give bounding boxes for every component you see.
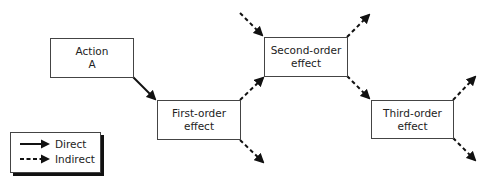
indirect-arrow-first-to-second [240, 78, 263, 100]
direct-arrow-action-to-first [133, 77, 155, 99]
indirect-arrow-second-to-third [347, 76, 369, 98]
node-label-line1: Third-order [383, 107, 442, 120]
legend-item-direct: Direct [19, 138, 86, 150]
indirect-arrow-second-out [347, 15, 369, 37]
node-first-order-effect: First-order effect [157, 100, 241, 140]
node-label-line2: effect [397, 120, 427, 133]
node-label-line1: Action [76, 45, 109, 58]
dashed-arrow-icon [19, 154, 51, 164]
legend-label-direct: Direct [55, 138, 86, 150]
node-label-line2: A [88, 58, 95, 71]
solid-arrow-icon [19, 139, 51, 149]
indirect-arrow-external-to-second [240, 13, 262, 35]
indirect-arrow-first-out [240, 140, 263, 162]
legend-item-indirect: Indirect [19, 153, 95, 165]
node-third-order-effect: Third-order effect [371, 100, 454, 139]
indirect-arrow-third-out-up [453, 77, 475, 100]
node-second-order-effect: Second-order effect [264, 37, 348, 77]
node-label-line2: effect [291, 57, 321, 70]
legend-label-indirect: Indirect [55, 153, 95, 165]
indirect-arrow-third-out-down [453, 138, 475, 160]
node-label-line1: Second-order [271, 44, 342, 57]
node-action-a: Action A [50, 38, 134, 78]
node-label-line2: effect [184, 120, 214, 133]
node-label-line1: First-order [172, 107, 226, 120]
legend: Direct Indirect [10, 132, 101, 173]
